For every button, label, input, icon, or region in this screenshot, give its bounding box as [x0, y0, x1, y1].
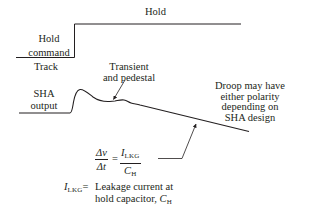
- droop-annotation: Droop may have either polarity depending…: [208, 81, 292, 123]
- transient-line1: Transient: [99, 61, 159, 72]
- transient-annotation: Transient and pedestal: [99, 61, 159, 83]
- legend-symbol-sub: LKG: [68, 186, 83, 194]
- formula-rhs-numerator: ILKG: [120, 147, 141, 164]
- transient-line2: and pedestal: [99, 72, 159, 83]
- sha-output-line1: SHA: [24, 88, 64, 99]
- legend-text: Leakage current at hold capacitor, CH: [95, 181, 173, 208]
- legend-equals: =: [83, 181, 89, 192]
- formula-rhs-denominator: CH: [124, 164, 136, 180]
- sha-output-line2: output: [24, 100, 64, 111]
- track-state-label: Track: [34, 61, 58, 72]
- hold-command-line2: command: [25, 47, 73, 58]
- hold-command-line1: Hold: [25, 33, 73, 44]
- legend-line2: hold capacitor, CH: [95, 193, 173, 208]
- droop-line1: Droop may have: [208, 81, 292, 92]
- legend-symbol: ILKG=: [64, 181, 88, 196]
- formula-lhs-numerator: Δv: [95, 147, 108, 160]
- hold-state-label: Hold: [145, 6, 166, 17]
- hold-command-label: Hold command: [25, 33, 73, 58]
- formula-rhs-fraction: ILKG CH: [120, 147, 141, 180]
- formula-lhs-denominator: Δt: [97, 160, 106, 172]
- sha-output-label: SHA output: [24, 88, 64, 111]
- formula-leader-arrow: [158, 124, 196, 159]
- legend-line1: Leakage current at: [95, 181, 173, 193]
- legend-cap-sub: H: [167, 198, 172, 206]
- legend-cap-main: C: [160, 193, 167, 204]
- droop-line4: SHA design: [208, 113, 292, 124]
- droop-line3: depending on: [208, 102, 292, 113]
- formula-lhs-fraction: Δv Δt: [95, 147, 108, 172]
- formula-equals: =: [112, 153, 118, 164]
